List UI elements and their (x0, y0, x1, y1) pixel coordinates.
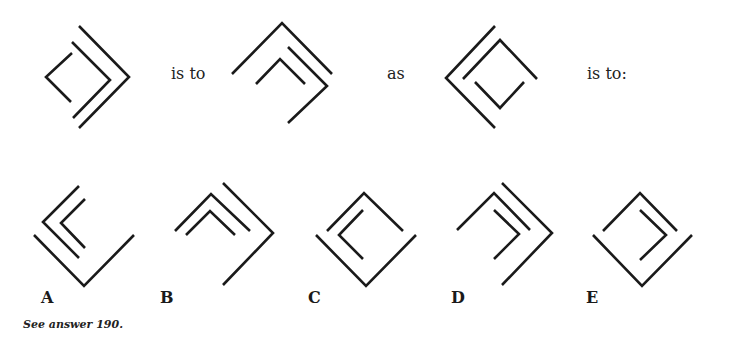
option-c-label[interactable]: C (308, 288, 321, 307)
right-chevron (223, 183, 273, 285)
option-b-figure[interactable] (175, 183, 273, 285)
connector-as: as (387, 64, 405, 83)
up-chevron (327, 193, 403, 231)
small-right-chevron (494, 210, 519, 259)
connector-is-to-colon: is to: (587, 64, 627, 83)
outer-left-chevron (446, 26, 495, 128)
right-chevron (288, 47, 327, 123)
outer-up-chevron (232, 23, 332, 74)
down-chevron (593, 235, 692, 286)
small-left-chevron (61, 199, 85, 248)
option-d-figure[interactable] (457, 183, 552, 285)
option-a-figure[interactable] (34, 186, 134, 286)
small-left-chevron (339, 210, 363, 259)
prompt-figure-3 (446, 26, 537, 128)
down-chevron (34, 235, 134, 286)
option-e-label[interactable]: E (586, 288, 598, 307)
right-chevron (502, 183, 552, 285)
prompt-figure-1 (46, 26, 129, 128)
small-up-chevron (256, 59, 305, 84)
prompt-figure-2 (232, 23, 332, 123)
option-d-label[interactable]: D (451, 288, 465, 307)
inner-left-chevron (46, 53, 72, 102)
answer-reference: See answer 190. (23, 318, 123, 331)
option-a-label[interactable]: A (41, 288, 53, 307)
inner-up-chevron (463, 40, 537, 79)
connector-is-to: is to (171, 64, 205, 83)
small-down-chevron (475, 82, 524, 108)
puzzle-canvas (0, 0, 729, 339)
option-c-figure[interactable] (316, 193, 416, 286)
small-up-chevron (186, 211, 235, 235)
down-chevron (316, 235, 416, 286)
outer-right-chevron (79, 26, 129, 128)
option-e-figure[interactable] (593, 193, 692, 286)
up-chevron (603, 193, 677, 231)
option-b-label[interactable]: B (160, 288, 174, 307)
